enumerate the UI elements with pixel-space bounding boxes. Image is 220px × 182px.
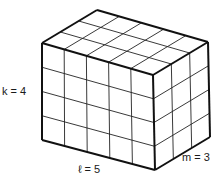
prism-diagram: k = 4 ℓ = 5 m = 3 [0,0,220,182]
height-label: k = 4 [2,85,26,97]
length-label: ℓ = 5 [78,163,100,175]
width-label: m = 3 [182,151,210,163]
prism-faces [42,10,210,170]
